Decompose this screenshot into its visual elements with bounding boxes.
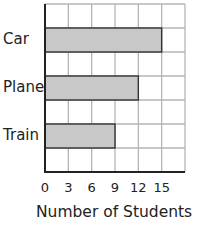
category-label-train: Train	[3, 126, 39, 144]
bar-plane	[45, 76, 138, 100]
x-axis-label: Number of Students	[36, 203, 192, 221]
bar-train	[45, 124, 115, 148]
x-tick-label: 12	[130, 180, 147, 195]
x-tick-label: 6	[88, 180, 96, 195]
category-label-plane: Plane	[3, 78, 44, 96]
x-tick-label: 0	[41, 180, 49, 195]
bar-chart: CarPlaneTrain 03691215 Number of Student…	[0, 0, 197, 228]
bar-car	[45, 28, 162, 52]
x-tick-label: 15	[153, 180, 170, 195]
x-tick-label: 9	[111, 180, 119, 195]
category-label-car: Car	[3, 30, 29, 48]
x-tick-label: 3	[64, 180, 72, 195]
